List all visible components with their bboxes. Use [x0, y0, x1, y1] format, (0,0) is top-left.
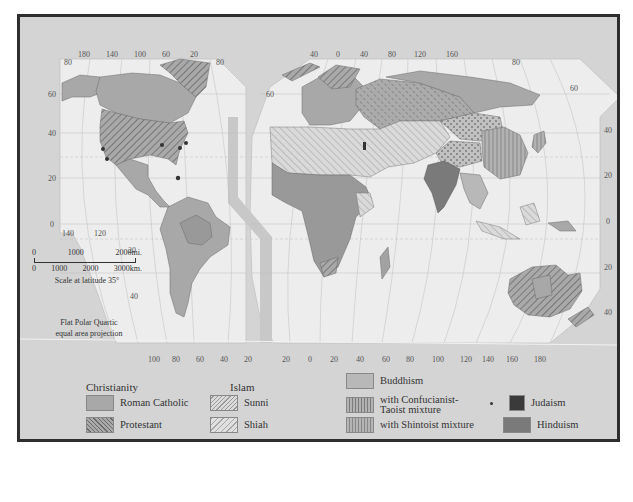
- scale-km-2000: 2000: [83, 264, 99, 273]
- legend-label: Buddhism: [380, 376, 423, 386]
- scale-caption: Scale at latitude 35°: [32, 276, 142, 285]
- svg-text:20: 20: [330, 355, 338, 364]
- svg-text:80: 80: [216, 58, 224, 67]
- svg-text:80: 80: [64, 58, 72, 67]
- map-frame: 180 140 100 60 20 80 80 40 0 40 80 120 1…: [17, 14, 620, 442]
- svg-text:140: 140: [106, 50, 118, 59]
- svg-text:40: 40: [356, 355, 364, 364]
- legend-item-sunni: Sunni: [210, 395, 269, 411]
- svg-text:80: 80: [388, 50, 396, 59]
- legend-label: Judaism: [531, 398, 565, 408]
- animism-swatch: [503, 439, 531, 442]
- svg-text:40: 40: [310, 50, 318, 59]
- scale-bar: [34, 258, 136, 263]
- scale-km-3000: 3000km.: [114, 264, 142, 273]
- scale-mi-0: 0: [32, 248, 36, 257]
- scale-mi-1000: 1000: [68, 248, 84, 257]
- svg-text:60: 60: [196, 355, 204, 364]
- legend-item-shiah: Shiah: [210, 417, 268, 433]
- legend-item-shintoist: with Shintoist mixture: [346, 417, 474, 433]
- scale-km-0: 0: [32, 264, 36, 273]
- svg-text:80: 80: [512, 58, 520, 67]
- legend-item-buddhism: Buddhism: [346, 373, 423, 389]
- svg-text:40: 40: [220, 355, 228, 364]
- legend-label: Protestant: [120, 420, 162, 430]
- svg-text:80: 80: [172, 355, 180, 364]
- buddhism-swatch: [346, 373, 374, 389]
- judaism-dot-marker: [490, 402, 493, 405]
- hinduism-swatch: [503, 417, 531, 433]
- svg-text:60: 60: [48, 90, 56, 99]
- legend-item-eastern-churches: Eastern churches: [86, 439, 191, 442]
- legend-item-roman-catholic: Roman Catholic: [86, 395, 189, 411]
- svg-text:40: 40: [130, 292, 138, 301]
- legend-item-judaism: Judaism: [490, 395, 565, 411]
- legend-label: Shiah: [244, 420, 268, 430]
- judaism-swatch: [509, 395, 525, 411]
- svg-text:20: 20: [282, 355, 290, 364]
- svg-text:20: 20: [190, 50, 198, 59]
- legend-label: Roman Catholic: [120, 398, 189, 408]
- svg-text:60: 60: [570, 84, 578, 93]
- svg-text:120: 120: [414, 50, 426, 59]
- shiah-swatch: [210, 417, 238, 433]
- scale-km-1000: 1000: [51, 264, 67, 273]
- svg-text:40: 40: [604, 126, 612, 135]
- svg-text:60: 60: [266, 90, 274, 99]
- svg-text:20: 20: [604, 263, 612, 272]
- svg-text:20: 20: [48, 174, 56, 183]
- map-scale: 010002000mi. 0100020003000km. Scale at l…: [32, 248, 142, 285]
- legend-heading-islam: Islam: [230, 381, 254, 393]
- svg-text:100: 100: [134, 50, 146, 59]
- svg-text:40: 40: [604, 308, 612, 317]
- svg-text:180: 180: [78, 50, 90, 59]
- legend-label: with Shintoist mixture: [380, 420, 474, 430]
- svg-text:40: 40: [48, 129, 56, 138]
- protestant-swatch: [86, 417, 114, 433]
- svg-text:140: 140: [62, 229, 74, 238]
- svg-text:120: 120: [94, 229, 106, 238]
- projection-note: Flat Polar Quartic equal area projection: [34, 317, 144, 339]
- confucianist-swatch: [346, 397, 374, 413]
- legend-item-confucianist-taoist: with Confucianist-Taoist mixture: [346, 395, 458, 415]
- svg-text:80: 80: [406, 355, 414, 364]
- svg-text:20: 20: [604, 171, 612, 180]
- svg-text:160: 160: [446, 50, 458, 59]
- svg-text:140: 140: [482, 355, 494, 364]
- legend-label-line2: Taoist mixture: [380, 404, 441, 415]
- legend-item-hinduism: Hinduism: [503, 417, 578, 433]
- roman-catholic-swatch: [86, 395, 114, 411]
- svg-text:0: 0: [308, 355, 312, 364]
- legend-item-lamaist: Lamaist Buddhism: [346, 439, 460, 442]
- shintoist-swatch: [346, 417, 374, 433]
- scale-mi-2000: 2000mi.: [116, 248, 142, 257]
- svg-text:100: 100: [148, 355, 160, 364]
- svg-text:0: 0: [606, 217, 610, 226]
- svg-text:0: 0: [336, 50, 340, 59]
- legend-heading-christianity: Christianity: [86, 381, 138, 393]
- projection-line-1: Flat Polar Quartic: [34, 317, 144, 328]
- projection-line-2: equal area projection: [34, 328, 144, 339]
- svg-text:160: 160: [506, 355, 518, 364]
- eastern-churches-swatch: [86, 439, 114, 442]
- region-israel: [363, 142, 366, 150]
- map-legend: Christianity Roman Catholic Protestant E…: [20, 373, 617, 439]
- legend-label: Hinduism: [537, 420, 578, 430]
- svg-text:60: 60: [162, 50, 170, 59]
- lamaist-swatch: [346, 439, 374, 442]
- svg-text:100: 100: [432, 355, 444, 364]
- legend-item-protestant: Protestant: [86, 417, 162, 433]
- svg-text:180: 180: [534, 355, 546, 364]
- svg-text:20: 20: [244, 355, 252, 364]
- svg-text:120: 120: [460, 355, 472, 364]
- legend-item-animism: Animism: [503, 439, 576, 442]
- legend-label: Sunni: [244, 398, 269, 408]
- svg-text:40: 40: [360, 50, 368, 59]
- svg-text:0: 0: [50, 220, 54, 229]
- legend-label: with Confucianist-Taoist mixture: [380, 395, 458, 415]
- svg-text:60: 60: [382, 355, 390, 364]
- sunni-swatch: [210, 395, 238, 411]
